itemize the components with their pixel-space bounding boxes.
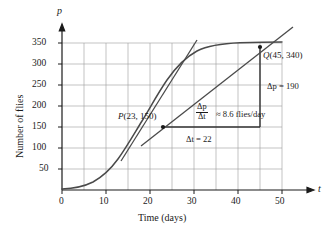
delta-p-annotation: Δp = 190 <box>267 82 299 91</box>
x-tick-label-10: 10 <box>99 197 109 207</box>
x-tick-label-30: 30 <box>187 197 197 207</box>
y-axis-arrowhead <box>59 24 64 31</box>
slope-denominator: Δt <box>196 113 208 122</box>
x-axis-ticks <box>62 190 282 194</box>
x-axis-symbol: t <box>318 184 321 194</box>
x-tick-label-40: 40 <box>231 197 241 207</box>
point-P-coords: (23, 150) <box>124 111 157 121</box>
y-tick-label-100: 100 <box>32 143 46 153</box>
x-tick-label-20: 20 <box>143 197 153 207</box>
y-axis-symbol: p <box>57 6 62 16</box>
x-axis-arrowhead <box>307 187 314 192</box>
y-axis-caption: Number of flies <box>14 95 25 158</box>
y-tick-label-350: 350 <box>32 38 46 48</box>
y-tick-label-250: 250 <box>32 80 46 90</box>
y-tick-label-200: 200 <box>32 101 46 111</box>
delta-t-annotation: Δt = 22 <box>186 135 212 144</box>
slope-value-annotation: ≈ 8.6 flies/day <box>216 110 265 119</box>
y-tick-label-300: 300 <box>32 59 46 69</box>
point-label-P: P(23, 150) <box>118 112 157 121</box>
point-label-Q: Q(45, 340) <box>263 51 303 60</box>
x-tick-label-0: 0 <box>59 197 64 207</box>
x-axis-caption: Time (days) <box>138 213 186 223</box>
y-tick-label-150: 150 <box>32 122 46 132</box>
point-P-marker <box>161 125 165 129</box>
y-tick-label-50: 50 <box>39 164 49 174</box>
slope-fraction: Δp Δt <box>196 103 208 122</box>
point-Q-marker <box>258 45 262 49</box>
fly-population-chart: 350 300 250 200 150 100 50 0 10 20 30 40… <box>0 0 334 233</box>
point-Q-coords: (45, 340) <box>270 50 303 60</box>
x-tick-label-50: 50 <box>275 197 285 207</box>
